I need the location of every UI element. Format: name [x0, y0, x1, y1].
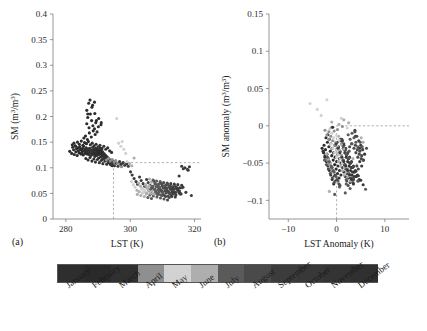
- scatter-point: [139, 194, 142, 197]
- scatter-point: [354, 144, 357, 147]
- scatter-point: [333, 163, 336, 166]
- x-tick-label: 10: [380, 224, 390, 234]
- scatter-point: [321, 147, 324, 150]
- scatter-point: [338, 151, 341, 154]
- scatter-point: [336, 178, 339, 181]
- scatter-point: [86, 116, 89, 119]
- scatter-point: [327, 130, 330, 133]
- scatter-point: [332, 136, 335, 139]
- scatter-point: [137, 182, 140, 185]
- scatter-point: [159, 196, 162, 199]
- scatter-points: [308, 98, 368, 196]
- scatter-point: [355, 165, 358, 168]
- scatter-point: [132, 183, 135, 186]
- x-axis-title: LST Anomaly (K): [304, 239, 374, 250]
- scatter-point: [175, 186, 178, 189]
- scatter-point: [155, 185, 158, 188]
- scatter-point: [140, 188, 143, 191]
- scatter-point: [320, 114, 323, 117]
- scatter-point: [121, 140, 124, 143]
- scatter-point: [359, 179, 362, 182]
- scatter-point: [81, 144, 84, 147]
- y-tick-label: 0.1: [36, 163, 47, 173]
- scatter-point: [345, 182, 348, 185]
- scatter-point: [347, 121, 350, 124]
- y-tick-label: 0.05: [31, 189, 47, 199]
- scatter-point: [322, 144, 325, 147]
- scatter-point: [103, 156, 106, 159]
- scatter-point: [328, 190, 331, 193]
- y-axis-title: SM anomaly (m3/m3): [220, 76, 232, 158]
- x-tick-label: 280: [59, 224, 73, 234]
- scatter-point: [333, 129, 336, 132]
- scatter-point: [365, 147, 368, 150]
- scatter-point: [182, 167, 185, 170]
- scatter-point: [333, 151, 336, 154]
- scatter-point: [325, 133, 328, 136]
- scatter-point: [337, 182, 340, 185]
- scatter-point: [143, 195, 146, 198]
- scatter-point: [356, 148, 359, 151]
- scatter-point: [133, 186, 136, 189]
- scatter-point: [336, 128, 339, 131]
- scatter-point: [144, 184, 147, 187]
- scatter-point: [360, 165, 363, 168]
- scatter-point: [160, 193, 163, 196]
- scatter-point: [86, 112, 89, 115]
- scatter-point: [350, 132, 353, 135]
- scatter-point: [325, 163, 328, 166]
- scatter-point: [331, 147, 334, 150]
- scatter-point: [357, 168, 360, 171]
- scatter-point: [170, 190, 173, 193]
- scatter-point: [113, 164, 116, 167]
- scatter-point: [125, 160, 128, 163]
- scatter-point: [322, 150, 325, 153]
- scatter-point: [124, 152, 127, 155]
- scatter-point: [339, 165, 342, 168]
- scatter-point: [326, 141, 329, 144]
- scatter-point: [325, 98, 328, 101]
- scatter-point: [342, 147, 345, 150]
- scatter-point: [340, 143, 343, 146]
- scatter-point: [364, 188, 367, 191]
- scatter-point: [337, 160, 340, 163]
- scatter-point: [352, 147, 355, 150]
- scatter-point: [167, 194, 170, 197]
- scatter-point: [331, 139, 334, 142]
- scatter-point: [160, 189, 163, 192]
- scatter-point: [338, 169, 341, 172]
- scatter-point: [341, 125, 344, 128]
- y-tick-label: 0.1: [252, 46, 263, 56]
- scatter-point: [345, 152, 348, 155]
- scatter-point: [155, 180, 158, 183]
- scatter-point: [338, 185, 341, 188]
- scatter-point: [352, 165, 355, 168]
- y-tick-label: 0.25: [31, 86, 47, 96]
- scatter-point: [349, 138, 352, 141]
- scatter-point: [119, 145, 122, 148]
- scatter-point: [131, 173, 134, 176]
- panel-a-tag: (a): [12, 236, 23, 247]
- scatter-point: [90, 135, 93, 138]
- scatter-point: [327, 168, 330, 171]
- x-axis-title: LST (K): [111, 239, 143, 250]
- scatter-point: [115, 117, 118, 120]
- scatter-point: [346, 127, 349, 130]
- scatter-point: [133, 177, 136, 180]
- y-tick-label: 0: [259, 121, 264, 131]
- scatter-point: [134, 180, 137, 183]
- scatter-point: [156, 188, 159, 191]
- scatter-point: [327, 138, 330, 141]
- x-tick-label: −10: [281, 224, 296, 234]
- scatter-point: [157, 183, 160, 186]
- scatter-point: [101, 162, 104, 165]
- scatter-point: [163, 194, 166, 197]
- scatter-point: [358, 153, 361, 156]
- scatter-point: [329, 135, 332, 138]
- scatter-point: [74, 145, 77, 148]
- scatter-point: [329, 150, 332, 153]
- scatter-point: [174, 191, 177, 194]
- scatter-point: [361, 145, 364, 148]
- scatter-point: [73, 153, 76, 156]
- scatter-point: [332, 159, 335, 162]
